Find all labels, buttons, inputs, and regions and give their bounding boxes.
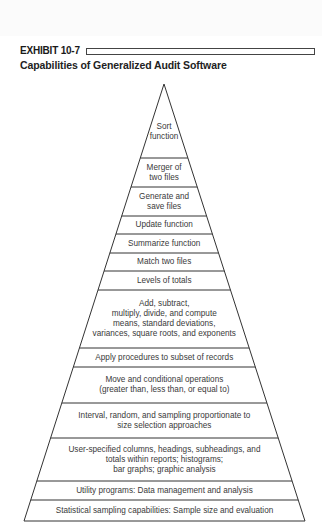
layer-label: Statistical sampling capabilities: Sampl… [56, 506, 274, 516]
pyramid-layer: Summarize function [115, 234, 214, 253]
layer-label-line: size selection approaches [78, 421, 250, 431]
layer-label: Move and conditional operations(greater … [99, 375, 229, 395]
layer-label: User-specified columns, headings, subhea… [68, 445, 260, 475]
layer-label-line: function [150, 132, 179, 142]
layer-label-line: Move and conditional operations [99, 375, 229, 385]
layer-label-line: means, standard deviations, [93, 319, 236, 329]
layer-label-line: Interval, random, and sampling proportio… [78, 411, 250, 421]
pyramid-layer: Move and conditional operations(greater … [70, 367, 260, 403]
pyramid-layer: Interval, random, and sampling proportio… [58, 403, 270, 438]
layer-label: Utility programs: Data management and an… [76, 486, 253, 496]
layer-label-line: save files [139, 202, 189, 212]
layer-label: Apply procedures to subset of records [95, 353, 233, 363]
pyramid-layer: Match two files [109, 253, 219, 271]
pyramid-layer: Levels of totals [103, 271, 225, 290]
pyramid-layer: Utility programs: Data management and an… [36, 481, 293, 500]
pyramid-layer: User-specified columns, headings, subhea… [46, 438, 283, 481]
layer-label: Sortfunction [150, 122, 179, 142]
pyramid-layer: Sortfunction [154, 106, 174, 158]
layer-label-line: Levels of totals [137, 276, 192, 286]
pyramid-layer: Statistical sampling capabilities: Sampl… [29, 500, 299, 521]
layer-label-line: Summarize function [128, 239, 200, 249]
layer-label: Interval, random, and sampling proportio… [78, 411, 250, 431]
layer-label-line: Match two files [137, 257, 191, 267]
layer-label-line: User-specified columns, headings, subhea… [68, 445, 260, 455]
layer-label-line: bar graphs; graphic analysis [68, 465, 260, 475]
layer-label-line: Merger of [147, 163, 182, 173]
layer-label-line: Apply procedures to subset of records [95, 353, 233, 363]
layer-label: Generate andsave files [139, 192, 189, 212]
layer-label: Match two files [137, 257, 191, 267]
layer-label: Add, subtract,multiply, divide, and comp… [93, 299, 236, 339]
layer-label-line: Generate and [139, 192, 189, 202]
layer-label-line: Utility programs: Data management and an… [76, 486, 253, 496]
layer-label-line: (greater than, less than, or equal to) [99, 385, 229, 395]
layer-label: Update function [135, 220, 192, 230]
layer-label-line: variances, square roots, and exponents [93, 329, 236, 339]
pyramid-layer: Generate andsave files [128, 187, 200, 216]
pyramid-layer: Update function [121, 216, 208, 234]
layer-label-line: Statistical sampling capabilities: Sampl… [56, 506, 274, 516]
layer-label-line: totals within reports; histograms; [68, 455, 260, 465]
layer-label: Merger oftwo files [147, 163, 182, 183]
layer-label: Summarize function [128, 239, 200, 249]
layer-label-line: two files [147, 173, 182, 183]
pyramid-layer: Merger oftwo files [138, 158, 191, 187]
layer-label-line: Add, subtract, [93, 299, 236, 309]
pyramid-layer: Add, subtract,multiply, divide, and comp… [91, 290, 238, 348]
layer-label-line: Update function [135, 220, 192, 230]
layer-label-line: Sort [150, 122, 179, 132]
layer-label: Levels of totals [137, 276, 192, 286]
layer-label-line: multiply, divide, and compute [93, 309, 236, 319]
pyramid-layer: Apply procedures to subset of records [78, 348, 250, 367]
